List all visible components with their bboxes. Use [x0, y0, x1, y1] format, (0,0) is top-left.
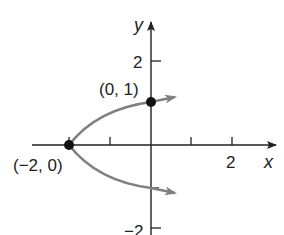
y-tick-label-2: 2 [133, 53, 142, 72]
point-0-1 [146, 97, 156, 107]
x-axis-label: x [263, 152, 274, 172]
y-tick-label-neg2: −2 [124, 222, 143, 235]
parabola-curve [69, 97, 175, 145]
x-tick-label-2: 2 [226, 153, 235, 172]
point-neg2-0 [64, 140, 74, 150]
point-label-neg2-0: (−2, 0) [13, 156, 63, 175]
parabola-curve-lower [69, 145, 175, 193]
parabola-graph: y x 2 −2 2 (0, 1) (−2, 0) [0, 0, 284, 235]
y-axis-label: y [132, 15, 144, 35]
point-label-0-1: (0, 1) [99, 80, 139, 99]
